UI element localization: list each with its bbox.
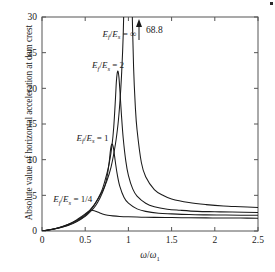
curve-label: Ef/Es = ∞ <box>101 29 136 40</box>
x-axis-ticks: 00.511.522.5 <box>40 17 265 245</box>
x-title-subscript: 1 <box>156 255 159 262</box>
y-tick-label: 0 <box>32 226 37 236</box>
data-curve <box>42 71 258 231</box>
x-tick-label: 0.5 <box>79 235 91 245</box>
page-corner-mark <box>270 2 273 5</box>
resonance-response-chart: 00.511.522.5 051015202530 Ef/Es = ∞Ef/Es… <box>0 0 275 272</box>
x-tick-label: 2 <box>212 235 217 245</box>
curve-label-group: Ef/Es = ∞Ef/Es = 2Ef/Es = 1Ef/Es = 1/4 <box>52 29 136 206</box>
annotation-value: 68.8 <box>146 25 163 35</box>
y-tick-label: 15 <box>28 119 38 129</box>
figure-panel: Absolute value of horizontal acceleratio… <box>0 0 275 272</box>
data-curve <box>42 210 258 231</box>
x-axis-title: ω/ω1 <box>140 250 159 262</box>
y-tick-label: 25 <box>28 48 38 58</box>
x-tick-label: 0 <box>40 235 45 245</box>
curve-label: Ef/Es = 1/4 <box>52 194 93 205</box>
y-tick-label: 30 <box>28 12 38 22</box>
curve-label: Ef/Es = 2 <box>91 60 124 71</box>
x-tick-label: 1 <box>126 235 131 245</box>
peak-annotation: 68.8 <box>136 19 163 40</box>
curve-label: Ef/Es = 1 <box>76 133 109 144</box>
y-tick-label: 10 <box>28 155 38 165</box>
y-tick-label: 20 <box>28 84 38 94</box>
x-tick-label: 1.5 <box>166 235 178 245</box>
svg-text:ω/ω1: ω/ω1 <box>140 250 159 262</box>
y-tick-label: 5 <box>32 191 37 201</box>
x-tick-label: 2.5 <box>252 235 264 245</box>
